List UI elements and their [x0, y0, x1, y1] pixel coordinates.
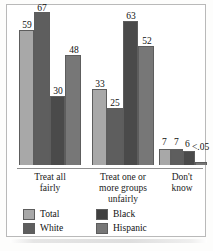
- bar-wrap-black: [50, 5, 65, 165]
- cat1-line2: fairly: [15, 183, 85, 194]
- legend-swatch-total: [23, 209, 35, 220]
- value-label-g1-white: 67: [27, 3, 57, 13]
- category-labels: Treat all fairly Treat one or more group…: [7, 172, 207, 212]
- chart-legend: Total Black White Hispanic: [23, 208, 191, 234]
- bar-wrap-black: [123, 5, 138, 165]
- bar-white[interactable]: [107, 108, 123, 165]
- value-label-g3-total: 7: [162, 137, 167, 147]
- cat2-line1: Treat one or: [85, 172, 161, 183]
- value-label-g1-total: 59: [12, 20, 42, 30]
- bar-wrap-hispanic: [195, 5, 207, 165]
- legend-label-white: White: [40, 223, 92, 234]
- bar-white[interactable]: [171, 149, 183, 165]
- page-shadow: [10, 239, 207, 243]
- cat3-line2: know: [159, 183, 205, 194]
- category-label-treat-unfairly: Treat one or more groups unfairly: [85, 172, 161, 205]
- value-label-g2-white: 25: [100, 98, 130, 108]
- bar-total[interactable]: [159, 149, 171, 165]
- chart-figure: 59 67 30 48: [0, 0, 213, 251]
- bar-hispanic[interactable]: [65, 55, 81, 165]
- legend-label-hispanic: Hispanic: [113, 223, 191, 234]
- bar-wrap-hispanic: [65, 5, 81, 165]
- value-label-g2-black: 63: [116, 11, 146, 21]
- plot-area: 59 67 30 48: [7, 5, 207, 165]
- bar-hispanic[interactable]: [138, 46, 154, 165]
- bar-total[interactable]: [19, 30, 34, 165]
- value-label-g1-black: 30: [43, 86, 73, 96]
- cat1-line1: Treat all: [15, 172, 85, 183]
- bar-hispanic[interactable]: [195, 162, 207, 165]
- chart-frame: 59 67 30 48: [6, 4, 206, 237]
- value-label-g2-hispanic: 52: [132, 36, 162, 46]
- value-label-g1-hispanic: 48: [59, 45, 89, 55]
- cat3-line1: Don't: [159, 172, 205, 183]
- legend-label-black: Black: [113, 209, 191, 220]
- category-label-dont-know: Don't know: [159, 172, 205, 194]
- legend-swatch-white: [23, 223, 35, 234]
- value-label-g3-white: 7: [174, 137, 179, 147]
- category-label-treat-all-fairly: Treat all fairly: [15, 172, 85, 194]
- bar-black[interactable]: [50, 96, 65, 165]
- value-label-g2-total: 33: [85, 79, 115, 89]
- legend-swatch-black: [96, 209, 108, 220]
- x-axis-line: [17, 168, 203, 169]
- legend-label-total: Total: [40, 209, 92, 220]
- legend-swatch-hispanic: [96, 223, 108, 234]
- cat2-line3: unfairly: [85, 194, 161, 205]
- bar-wrap-hispanic: [138, 5, 154, 165]
- cat2-line2: more groups: [85, 183, 161, 194]
- bar-black[interactable]: [183, 151, 195, 165]
- value-label-g3-black: 6: [185, 139, 190, 149]
- value-label-g3-hispanic: <.05: [192, 142, 209, 152]
